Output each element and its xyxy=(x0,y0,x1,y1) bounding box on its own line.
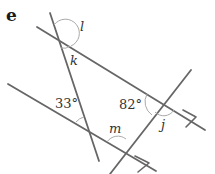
angle-j-label: j xyxy=(158,117,165,132)
angle-33-label: 33° xyxy=(55,96,78,111)
angle-k-label: k xyxy=(70,53,78,68)
angle-33-arc xyxy=(76,117,84,122)
angle-m-label: m xyxy=(109,121,121,136)
lower-arrow-icon xyxy=(135,156,149,172)
angle-m-arc xyxy=(107,136,126,142)
angle-l-label: l xyxy=(80,19,84,34)
upper-parallel-line xyxy=(37,27,205,130)
angle-82-label: 82° xyxy=(119,97,142,112)
angle-l-arc xyxy=(54,19,79,46)
right-transversal-line xyxy=(110,70,191,174)
steep-transversal-line xyxy=(50,13,99,161)
geometry-diagram: e l k 33° 82° j m xyxy=(0,0,215,174)
part-label: e xyxy=(6,5,17,25)
